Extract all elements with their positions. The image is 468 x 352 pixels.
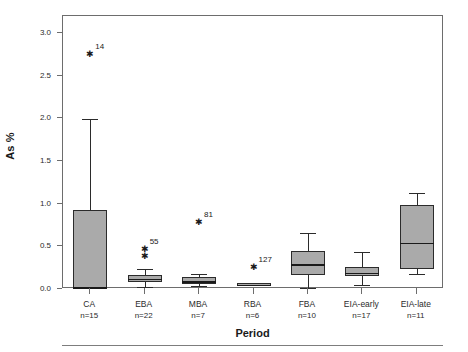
category-name: RBA	[244, 299, 261, 309]
outlier-label: 55	[150, 236, 159, 245]
box-plot-group	[63, 16, 442, 287]
category-count: n=17	[344, 310, 379, 322]
outlier-marker: ✱	[86, 52, 94, 57]
outlier-marker: ✱	[195, 219, 203, 224]
x-axis-tick-mark	[416, 288, 417, 294]
outlier-label: 127	[259, 254, 272, 263]
category-count: n=7	[189, 310, 207, 322]
x-axis-category-label: EIA-earlyn=17	[344, 298, 379, 322]
x-axis-tick-mark	[253, 288, 254, 294]
category-name: EBA	[135, 299, 152, 309]
x-axis-category-label: MBAn=7	[189, 298, 207, 322]
whisker-cap-lower	[409, 274, 425, 275]
whisker-cap-upper	[409, 193, 425, 194]
category-count: n=10	[298, 310, 316, 322]
y-axis-tick-label: 0.0	[21, 284, 51, 293]
median-line	[400, 243, 434, 245]
category-name: CA	[83, 299, 95, 309]
box-plot-figure: As % 0.00.51.01.52.02.53.0 ✱14✱55✱✱81✱12…	[0, 0, 468, 352]
outlier-marker: ✱	[141, 253, 149, 258]
category-count: n=22	[135, 310, 153, 322]
x-axis-tick-mark	[89, 288, 90, 294]
y-axis-tick-label: 2.5	[21, 70, 51, 79]
y-axis-tick-label: 3.0	[21, 28, 51, 37]
x-axis-title-text: Period	[235, 327, 269, 339]
category-name: FBA	[299, 299, 316, 309]
y-axis-tick-mark	[57, 288, 62, 289]
x-axis-tick-mark	[307, 288, 308, 294]
category-count: n=15	[80, 310, 98, 322]
y-axis-tick-label: 0.5	[21, 241, 51, 250]
whisker-upper	[417, 193, 418, 206]
x-axis-category-label: EIA-laten=11	[401, 298, 431, 322]
median-line	[73, 287, 107, 289]
x-axis-category-label: FBAn=10	[298, 298, 316, 322]
x-axis-category-label: RBAn=6	[244, 298, 261, 322]
box-iqr	[400, 205, 434, 268]
x-axis-tick-mark	[361, 288, 362, 294]
y-axis-title: As %	[4, 111, 16, 181]
category-name: MBA	[189, 299, 207, 309]
y-axis-tick-label: 1.0	[21, 198, 51, 207]
category-name: EIA-early	[344, 299, 379, 309]
y-axis-title-text: As %	[4, 132, 16, 160]
whisker-cap-lower	[137, 287, 153, 288]
y-axis-tick-label: 2.0	[21, 113, 51, 122]
x-axis-category-label: CAn=15	[80, 298, 98, 322]
category-count: n=6	[244, 310, 261, 322]
plot-area: ✱14✱55✱✱81✱127	[62, 15, 443, 288]
x-axis-tick-mark	[198, 288, 199, 294]
x-axis-category-label: EBAn=22	[135, 298, 153, 322]
x-axis-title: Period	[62, 327, 443, 339]
y-axis-tick-label: 1.5	[21, 156, 51, 165]
outlier-label: 81	[204, 209, 213, 218]
category-name: EIA-late	[401, 299, 431, 309]
category-count: n=11	[401, 310, 431, 322]
outlier-marker: ✱	[250, 264, 258, 269]
whisker-cap-lower	[300, 288, 316, 289]
caption-divider	[62, 345, 443, 346]
x-axis-tick-mark	[144, 288, 145, 294]
outlier-label: 14	[95, 42, 104, 51]
